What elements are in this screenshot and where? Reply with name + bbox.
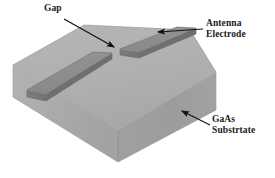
gaas-substrate-label-line2: Substrtate xyxy=(212,125,255,136)
antenna-electrode-label-line1: Antenna xyxy=(206,18,246,29)
gap-label: Gap xyxy=(44,3,62,14)
gaas-substrate-label-line1: GaAs xyxy=(212,114,255,125)
figure-canvas: Gap Antenna Electrode GaAs Substrtate xyxy=(0,0,275,178)
gaas-substrate-label: GaAs Substrtate xyxy=(212,114,255,136)
antenna-electrode-label-line2: Electrode xyxy=(206,29,246,40)
gap-label-text: Gap xyxy=(44,3,62,14)
antenna-electrode-label: Antenna Electrode xyxy=(206,18,246,40)
